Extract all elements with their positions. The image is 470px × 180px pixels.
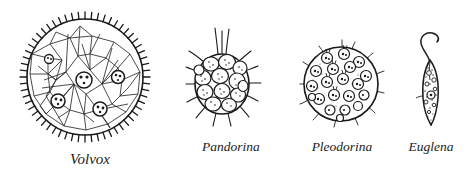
- label-pandorina: Pandorina: [176, 140, 286, 154]
- label-euglena: Euglena: [396, 140, 466, 154]
- label-volvox: Volvox: [20, 152, 160, 167]
- euglena-flagellum: [421, 33, 438, 62]
- volvox-illustration: [22, 14, 148, 142]
- pleodorina-illustration: [300, 40, 384, 132]
- pandorina-illustration: [186, 26, 262, 130]
- organism-comparison-figure: Volvox Pandorina Pleodorina Euglena: [0, 0, 470, 180]
- euglena-illustration: [408, 26, 456, 134]
- euglena-lateral-mark: [416, 96, 423, 98]
- label-pleodorina: Pleodorina: [292, 140, 392, 154]
